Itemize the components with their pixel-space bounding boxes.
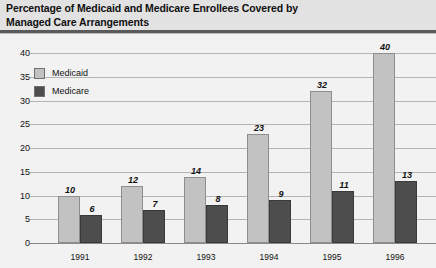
x-tick-label-1995: 1995 [310, 253, 354, 262]
y-tick-label-5: 5 [6, 215, 30, 224]
y-tick-label-40: 40 [6, 49, 30, 58]
y-tick-label-15: 15 [6, 168, 30, 177]
plot-area: 0510152025303540 Medicaid Medicare 10612… [0, 34, 436, 268]
x-tick-label-1996: 1996 [373, 253, 417, 262]
x-axis-ticks: 199119921993199419951996 [30, 34, 436, 268]
y-tick-label-35: 35 [6, 73, 30, 82]
y-tick-label-25: 25 [6, 120, 30, 129]
chart-page: Percentage of Medicaid and Medicare Enro… [0, 0, 436, 268]
y-tick-label-20: 20 [6, 144, 30, 153]
page-title: Percentage of Medicaid and Medicare Enro… [6, 2, 428, 29]
x-tick-label-1992: 1992 [121, 253, 165, 262]
y-tick-label-30: 30 [6, 97, 30, 106]
chart-title-band: Percentage of Medicaid and Medicare Enro… [0, 0, 436, 30]
y-tick-label-10: 10 [6, 192, 30, 201]
y-tick-label-0: 0 [6, 239, 30, 248]
x-tick-label-1994: 1994 [247, 253, 291, 262]
x-tick-label-1993: 1993 [184, 253, 228, 262]
x-tick-label-1991: 1991 [58, 253, 102, 262]
y-axis-ticks: 0510152025303540 [0, 34, 30, 268]
